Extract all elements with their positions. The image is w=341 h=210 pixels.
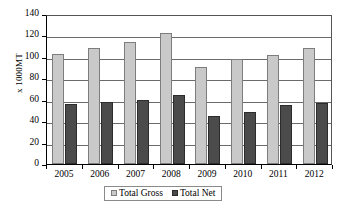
bar-total-gross-2005	[52, 54, 64, 164]
x-axis-tick-label-2011: 2011	[258, 169, 298, 179]
bar-total-gross-2007	[124, 42, 136, 164]
x-axis-tick-label-2009: 2009	[187, 169, 227, 179]
bar-total-net-2008	[173, 95, 185, 164]
x-axis-tick-label-2005: 2005	[44, 169, 84, 179]
y-axis-tick-label: 120	[25, 29, 39, 39]
y-axis-tick-label: 140	[25, 8, 39, 18]
y-axis-tick-label: 100	[25, 51, 39, 61]
bar-total-gross-2008	[160, 33, 172, 164]
legend-swatch-icon	[172, 190, 178, 196]
bar-total-net-2009	[208, 116, 220, 164]
bar-total-net-2006	[101, 102, 113, 164]
legend-item-total-gross: Total Gross	[111, 188, 163, 198]
x-axis-tick-label-2007: 2007	[115, 169, 155, 179]
bar-total-net-2011	[280, 105, 292, 164]
y-axis-tick-label: 20	[30, 137, 40, 147]
bar-total-net-2007	[137, 100, 149, 164]
bar-total-net-2005	[65, 104, 77, 164]
legend-item-total-net: Total Net	[172, 188, 215, 198]
y-axis-tick-label: 40	[30, 115, 40, 125]
x-axis-tick-mark	[46, 165, 47, 169]
x-axis-tick-label-2010: 2010	[223, 169, 263, 179]
bar-total-net-2012	[316, 103, 328, 164]
legend-label: Total Net	[180, 188, 215, 198]
bar-total-gross-2010	[231, 59, 243, 164]
bar-chart: x 1000MT 020406080100120140 200520062007…	[0, 0, 341, 210]
x-axis-tick-label-2006: 2006	[80, 169, 120, 179]
bar-total-gross-2012	[303, 48, 315, 164]
y-axis-title: x 1000MT	[14, 28, 24, 118]
x-axis-tick-label-2012: 2012	[294, 169, 334, 179]
y-axis-tick-label: 0	[34, 158, 39, 168]
legend-swatch-icon	[111, 190, 117, 196]
bar-total-gross-2011	[267, 55, 279, 164]
x-axis-tick-label-2008: 2008	[151, 169, 191, 179]
legend: Total GrossTotal Net	[104, 186, 222, 201]
y-axis-tick-label: 80	[30, 72, 40, 82]
bar-total-net-2010	[244, 112, 256, 164]
y-axis-tick-label: 60	[30, 94, 40, 104]
bar-total-gross-2009	[195, 67, 207, 164]
legend-label: Total Gross	[119, 188, 163, 198]
bar-total-gross-2006	[88, 48, 100, 164]
plot-area	[46, 15, 332, 165]
gridline	[47, 37, 331, 38]
